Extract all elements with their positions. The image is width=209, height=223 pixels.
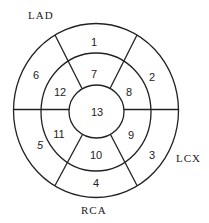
segment-5-label: 5: [37, 139, 44, 151]
segment-11-label: 11: [53, 128, 64, 140]
segment-8-label: 8: [126, 86, 132, 98]
segment-7-label: 7: [91, 68, 97, 80]
bullseye-diagram: 1 2 3 4 5 6 7 8 9 10 11 12 13 LAD LCX RC…: [0, 0, 209, 223]
artery-label-lad: LAD: [28, 9, 54, 21]
segment-13-label: 13: [91, 106, 103, 118]
artery-label-rca: RCA: [81, 204, 107, 216]
divider-lower-left: [55, 135, 83, 186]
divider-upper-right: [110, 35, 137, 89]
segment-2-label: 2: [149, 71, 155, 83]
segment-10-label: 10: [90, 149, 102, 161]
segment-6-label: 6: [33, 69, 39, 81]
segment-12-label: 12: [54, 86, 66, 98]
segment-3-label: 3: [149, 149, 155, 161]
segment-9-label: 9: [128, 129, 134, 141]
segment-4-label: 4: [93, 177, 99, 189]
divider-upper-left: [55, 35, 82, 89]
divider-lower-right: [111, 135, 138, 186]
artery-label-lcx: LCX: [176, 152, 201, 164]
segment-1-label: 1: [91, 36, 97, 48]
